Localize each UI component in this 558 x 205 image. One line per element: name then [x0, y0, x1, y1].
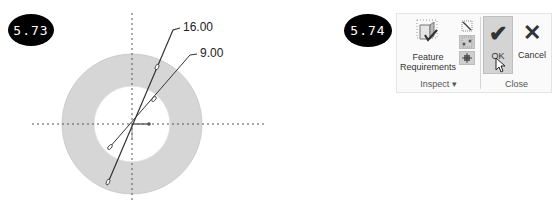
- check-geometry-icon: [461, 52, 473, 64]
- inspect-tool-button-1[interactable]: [459, 19, 475, 33]
- dimension-arrowhead: [151, 96, 157, 103]
- close-icon: ✕: [515, 20, 549, 46]
- mouse-cursor-icon: [495, 57, 507, 73]
- figure-number: 5.74: [350, 23, 385, 38]
- inspect-tool-button-2[interactable]: [459, 35, 475, 49]
- cancel-button[interactable]: ✕ Cancel: [515, 16, 549, 74]
- close-group-label: Close: [481, 79, 552, 89]
- x-axis-handle: [147, 122, 151, 126]
- inspect-group: Feature Requirements Inspect ▾: [397, 14, 480, 92]
- figure-badge: 5.74: [344, 14, 392, 47]
- checkmark-icon: ✔: [484, 21, 512, 47]
- dimension-16-label[interactable]: 16.00: [183, 20, 213, 34]
- ribbon-panel: Feature Requirements Inspect ▾ ✔: [396, 13, 552, 93]
- inspect-group-label[interactable]: Inspect ▾: [397, 79, 480, 89]
- analysis-icon: [461, 36, 473, 48]
- measure-icon: [461, 20, 473, 32]
- feature-label-line1: Feature: [399, 52, 457, 62]
- inspect-tool-button-3[interactable]: [459, 51, 475, 65]
- dimension-arrowhead: [107, 144, 113, 151]
- feature-label-line2: Requirements: [399, 62, 457, 72]
- close-group: ✔ OK ✕ Cancel Close: [481, 14, 552, 92]
- cancel-label: Cancel: [515, 50, 549, 60]
- dimension-9-label[interactable]: 9.00: [200, 46, 223, 60]
- feature-requirements-button[interactable]: Feature Requirements: [399, 17, 457, 77]
- ok-button[interactable]: ✔ OK: [483, 16, 513, 74]
- feature-requirements-icon: [415, 19, 441, 45]
